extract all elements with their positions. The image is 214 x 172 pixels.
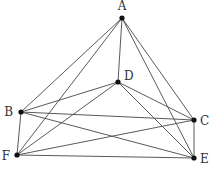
edge-ad — [118, 18, 122, 82]
edge-bf — [17, 112, 21, 155]
point-a-dot-icon — [119, 15, 124, 20]
point-label-d: D — [124, 69, 134, 83]
point-e-dot-icon — [191, 155, 196, 160]
geometry-figure: ADBCFE — [0, 0, 214, 172]
edge-df — [17, 82, 118, 155]
edge-de — [118, 82, 194, 158]
point-label-c: C — [200, 114, 209, 128]
edge-fe — [17, 155, 194, 158]
edges-group — [17, 18, 194, 158]
edge-fc — [17, 120, 194, 155]
labels-group: ADBCFE — [2, 0, 210, 166]
edge-dc — [118, 82, 194, 120]
point-b-dot-icon — [18, 109, 23, 114]
edge-ab — [21, 18, 122, 112]
point-d-dot-icon — [115, 79, 120, 84]
point-label-b: B — [4, 105, 13, 119]
point-f-dot-icon — [14, 152, 19, 157]
point-label-a: A — [117, 0, 127, 13]
point-c-dot-icon — [191, 117, 196, 122]
points-group — [14, 15, 196, 160]
point-label-e: E — [200, 152, 209, 166]
edge-ae — [122, 18, 194, 158]
point-label-f: F — [2, 149, 10, 163]
